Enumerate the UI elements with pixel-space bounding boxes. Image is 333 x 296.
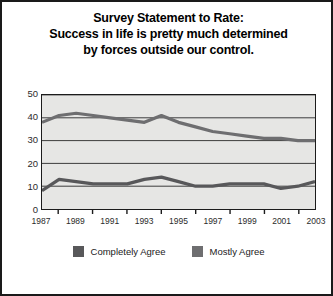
chart-legend: Completely AgreeMostly Agree [2, 246, 333, 257]
title-line-2: Success in life is pretty much determine… [2, 26, 333, 42]
y-tick-label-0: 0 [4, 205, 38, 215]
y-tick-label-50: 50 [4, 89, 38, 99]
legend-label: Mostly Agree [210, 246, 265, 257]
line-chart-canvas [42, 95, 315, 209]
x-tick-label-1995: 1995 [162, 216, 196, 227]
x-tick-label-2003: 2003 [299, 216, 333, 227]
legend-item-mostly-agree[interactable]: Mostly Agree [192, 246, 265, 257]
legend-swatch-icon [192, 246, 203, 257]
x-tick-label-1999: 1999 [230, 216, 264, 227]
legend-item-completely-agree[interactable]: Completely Agree [73, 246, 166, 257]
x-tick-label-1991: 1991 [93, 216, 127, 227]
x-tick-label-1989: 1989 [58, 216, 92, 227]
x-axis: 198719891991199319951997199920012003 [41, 216, 316, 232]
chart-figure: Survey Statement to Rate: Success in lif… [0, 0, 333, 296]
y-tick-label-20: 20 [4, 159, 38, 169]
legend-label: Completely Agree [91, 246, 166, 257]
x-tick-label-1987: 1987 [24, 216, 58, 227]
chart-title: Survey Statement to Rate: Success in lif… [2, 10, 333, 58]
x-tick-label-1993: 1993 [127, 216, 161, 227]
plot-wrapper: 50403020100 1987198919911993199519971999… [2, 88, 333, 296]
title-line-1: Survey Statement to Rate: [2, 10, 333, 26]
y-axis: 50403020100 [2, 94, 38, 210]
x-tick-label-1997: 1997 [196, 216, 230, 227]
y-tick-label-40: 40 [4, 112, 38, 122]
legend-swatch-icon [73, 246, 84, 257]
series-line-completely-agree [42, 177, 315, 191]
x-tick-label-2001: 2001 [265, 216, 299, 227]
x-axis-ticks [41, 209, 316, 216]
title-line-3: by forces outside our control. [2, 42, 333, 58]
y-tick-label-10: 10 [4, 182, 38, 192]
plot-area [41, 94, 316, 210]
y-tick-label-30: 30 [4, 135, 38, 145]
